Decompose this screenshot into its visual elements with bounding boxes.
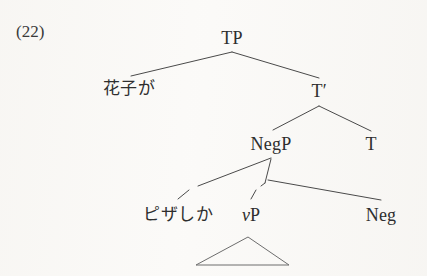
tree-node-t-bar-label: T [311, 81, 322, 101]
edge-tbar-negp [273, 106, 319, 130]
vp-triangle [196, 237, 289, 265]
tree-node-piza-shika: ピザしか [143, 206, 213, 223]
tree-node-negp-label: NegP [251, 134, 292, 154]
tree-node-neg: Neg [366, 206, 397, 224]
edge-tbar-t [319, 106, 371, 131]
edge-negp-neg [268, 180, 381, 200]
tree-node-t-bar: T′ [311, 82, 326, 100]
tree-node-vp-label: vP [242, 205, 260, 225]
tree-branches [0, 0, 427, 276]
tree-diagram-figure: (22) TP 花子が T′ NegP T ピザしか vP Neg [0, 0, 427, 276]
tree-node-neg-label: Neg [366, 205, 397, 225]
edge-tp-tbar [232, 52, 319, 78]
edge-negp-vp-upper [265, 159, 271, 183]
vp-little-v: v [242, 205, 250, 225]
tree-node-hanako-ga-label: 花子が [103, 78, 156, 98]
edge-negp-pizashika-upper [198, 158, 271, 186]
vp-projection-p: P [250, 205, 260, 225]
example-number: (22) [16, 22, 44, 42]
tree-node-t-label: T [365, 134, 376, 154]
tree-node-hanako-ga: 花子が [103, 80, 156, 97]
edge-negp-vp-mid [261, 183, 265, 186]
tree-node-t: T [365, 135, 376, 153]
edge-negp-vp-lower [251, 190, 256, 199]
tree-node-vp: vP [242, 206, 260, 224]
edge-negp-pizashika-lower [178, 190, 189, 199]
t-bar-prime-mark: ′ [323, 81, 327, 101]
tree-node-tp-label: TP [221, 28, 242, 48]
edge-tp-hanako [131, 52, 232, 76]
tree-node-negp: NegP [251, 135, 292, 153]
tree-node-tp: TP [221, 29, 242, 47]
tree-node-piza-shika-label: ピザしか [143, 204, 213, 224]
